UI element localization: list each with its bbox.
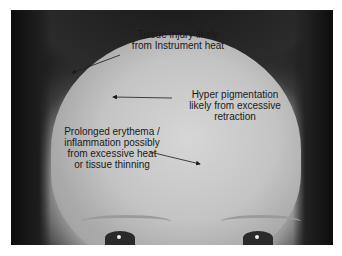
label-prolonged-erythema: Prolonged erythema / inflammation possib… [52,126,172,170]
arrow-tissue-injury [72,55,120,73]
label-hyper-pigmentation: Hyper pigmentation likely from excessive… [175,89,295,122]
arrow-hyper-pigmentation [113,97,172,98]
label-tissue-injury: Tissue injury likely from Instrument hea… [123,29,233,51]
